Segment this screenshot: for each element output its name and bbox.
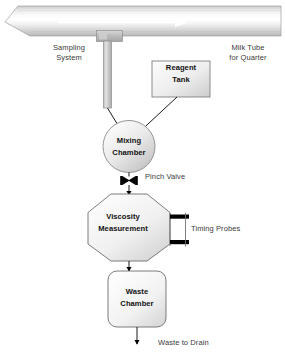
milk-tube: [5, 6, 281, 36]
viscosity-measurement-label: Viscosity Measurement: [84, 211, 162, 234]
sampling-system-label: Sampling System: [36, 43, 102, 62]
mixing-chamber-label: Mixing Chamber: [99, 135, 159, 158]
pinch-valve-label: Pinch Valve: [145, 172, 215, 182]
timing-probes-label: Timing Probes: [191, 224, 273, 234]
reagent-tank-label: Reagent Tank: [154, 62, 208, 85]
pinch-valve-symbol: [120, 176, 138, 185]
waste-to-drain-label: Waste to Drain: [158, 338, 248, 348]
milk-tube-label: Milk Tube for Quarter: [215, 43, 281, 62]
reagent-to-mixing-line: [141, 97, 178, 131]
timing-probes-symbol: [170, 213, 189, 247]
waste-chamber-label: Waste Chamber: [110, 286, 164, 309]
process-flow-diagram: Sampling System Milk Tube for Quarter Mi…: [0, 0, 285, 355]
